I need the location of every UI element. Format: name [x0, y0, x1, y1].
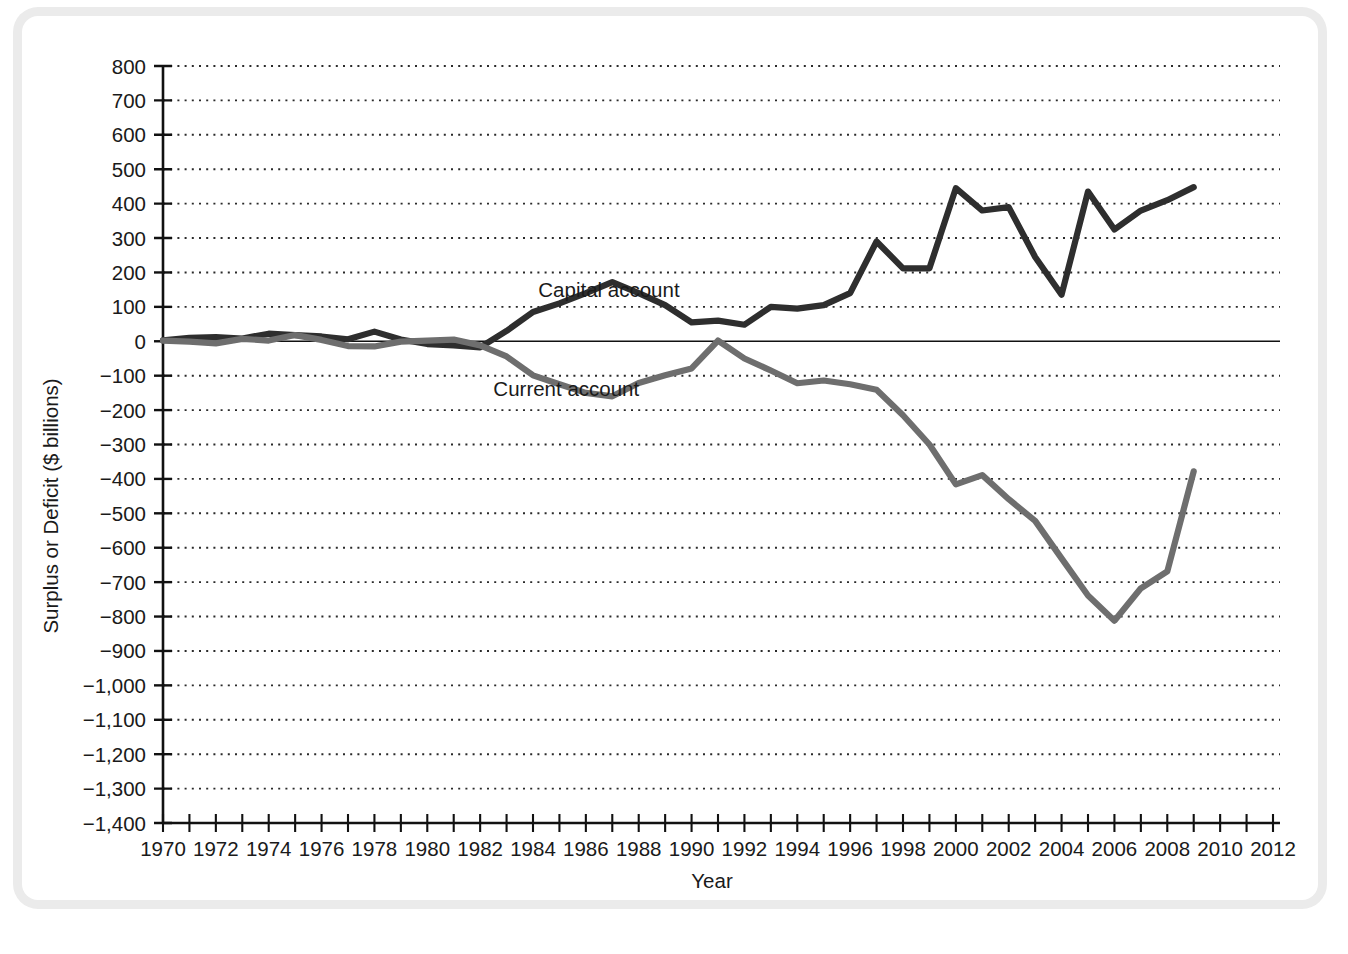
y-tick-label: −1,300: [83, 777, 146, 800]
x-tick-label: 1972: [193, 837, 239, 860]
x-tick-label: 1998: [880, 837, 926, 860]
y-tick-label: −800: [100, 605, 146, 628]
gridlines-group: [163, 66, 1280, 823]
x-tick-label: 1982: [457, 837, 503, 860]
y-tick-label: −200: [100, 399, 146, 422]
x-axis-title: Year: [691, 869, 733, 892]
y-tick-label: 0: [135, 330, 146, 353]
y-tick-label: 100: [112, 295, 146, 318]
y-tick-label: −1,100: [83, 708, 146, 731]
figure-page: 8007006005004003002001000−100−200−300−40…: [0, 0, 1348, 954]
series-line-capital-account: [163, 187, 1194, 347]
y-axis-title: Surplus or Deficit ($ billions): [39, 378, 62, 633]
x-tick-label: 2004: [1039, 837, 1085, 860]
annotation-capital-account: Capital account: [538, 278, 680, 301]
y-tick-label: 300: [112, 227, 146, 250]
series-line-current-account: [163, 335, 1194, 621]
y-tick-label: 700: [112, 89, 146, 112]
y-tick-label: 500: [112, 158, 146, 181]
x-tick-label: 1970: [140, 837, 186, 860]
y-tick-label: −300: [100, 433, 146, 456]
y-tick-label: 200: [112, 261, 146, 284]
x-tick-label: 2000: [933, 837, 979, 860]
x-tick-label: 2002: [986, 837, 1032, 860]
y-tick-label: −100: [100, 364, 146, 387]
y-axis: [154, 66, 172, 823]
y-tick-label: −1,000: [83, 674, 146, 697]
x-tick-label: 2006: [1092, 837, 1138, 860]
y-axis-tick-labels: 8007006005004003002001000−100−200−300−40…: [83, 55, 146, 835]
x-tick-label: 1984: [510, 837, 556, 860]
x-tick-label: 1978: [352, 837, 398, 860]
x-tick-label: 1974: [246, 837, 292, 860]
x-tick-label: 2008: [1144, 837, 1190, 860]
x-tick-label: 2012: [1250, 837, 1296, 860]
x-tick-label: 1980: [404, 837, 450, 860]
x-tick-label: 1992: [722, 837, 768, 860]
y-tick-label: −1,200: [83, 743, 146, 766]
figure-frame: 8007006005004003002001000−100−200−300−40…: [22, 16, 1318, 900]
y-tick-label: −900: [100, 639, 146, 662]
y-tick-label: −700: [100, 571, 146, 594]
x-tick-label: 1990: [669, 837, 715, 860]
annotation-current-account: Current account: [493, 377, 639, 400]
y-tick-label: −400: [100, 467, 146, 490]
x-axis: [163, 814, 1280, 832]
x-tick-label: 2010: [1197, 837, 1243, 860]
y-tick-label: 600: [112, 123, 146, 146]
x-axis-tick-labels: 1970197219741976197819801982198419861988…: [140, 837, 1296, 860]
x-tick-label: 1996: [827, 837, 873, 860]
x-tick-label: 1994: [774, 837, 820, 860]
data-series-group: [163, 187, 1194, 621]
x-tick-label: 1976: [299, 837, 345, 860]
line-chart: 8007006005004003002001000−100−200−300−40…: [22, 16, 1318, 900]
y-tick-label: −600: [100, 536, 146, 559]
chart-plot-area: 8007006005004003002001000−100−200−300−40…: [22, 16, 1318, 900]
y-tick-label: −1,400: [83, 812, 146, 835]
y-tick-label: 400: [112, 192, 146, 215]
x-tick-label: 1986: [563, 837, 609, 860]
y-tick-label: 800: [112, 55, 146, 78]
x-tick-label: 1988: [616, 837, 662, 860]
y-tick-label: −500: [100, 502, 146, 525]
